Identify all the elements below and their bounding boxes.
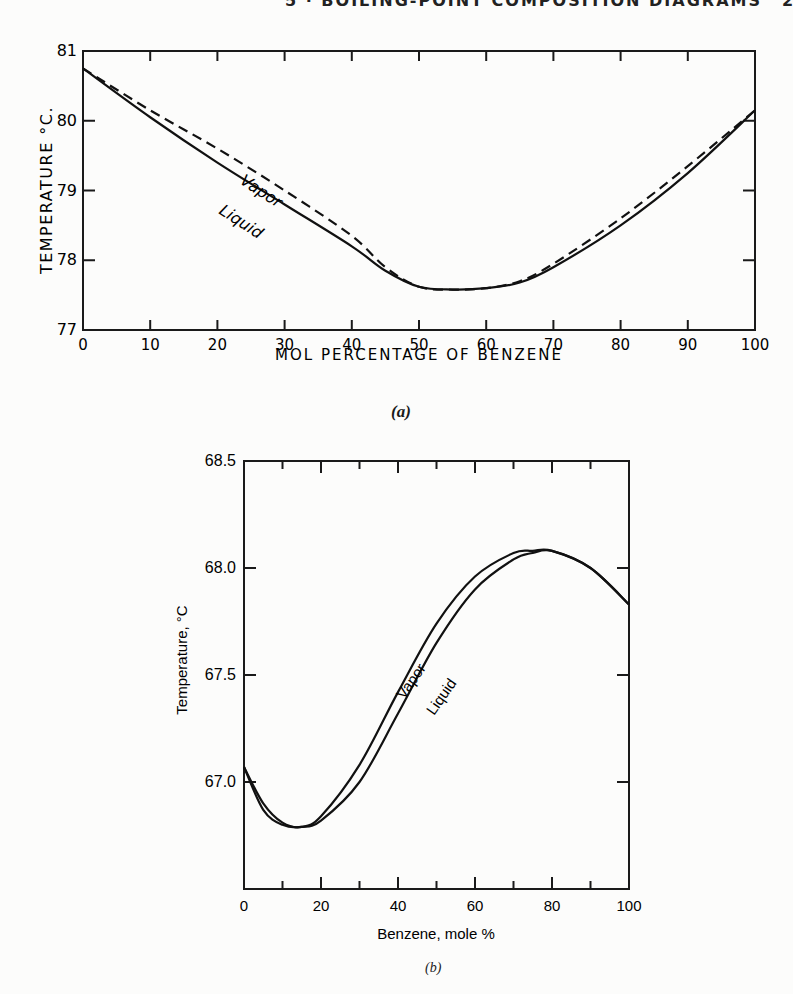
chart-a-x-axis: 0102030405060708090100	[78, 51, 769, 354]
y-tick-label: 77	[57, 320, 77, 339]
x-tick-label: 100	[616, 897, 641, 914]
y-tick-label: 80	[57, 111, 77, 130]
chart-b-liquid-label: Liquid	[423, 675, 460, 718]
chart-a-caption: (a)	[391, 402, 411, 422]
y-tick-label: 67.5	[205, 666, 236, 683]
chart-a-liquid-label: Liquid	[216, 200, 268, 243]
series-liquid-line	[83, 68, 755, 289]
x-tick-label: 100	[741, 336, 770, 354]
chart-a-y-label: TEMPERATURE °C.	[37, 106, 56, 275]
x-tick-label: 40	[390, 897, 407, 914]
chart-a-series	[83, 68, 755, 289]
chart-a-x-label: MOL PERCENTAGE OF BENZENE	[275, 346, 563, 364]
chart-b: 020406080100 67.067.568.068.5 Benzene, m…	[173, 452, 642, 942]
x-tick-label: 80	[544, 897, 561, 914]
y-tick-label: 79	[57, 181, 77, 200]
chart-b-frame	[244, 461, 629, 889]
chart-b-y-label: Temperature, °C	[173, 605, 190, 715]
x-tick-label: 80	[611, 336, 630, 354]
y-tick-label: 68.5	[205, 452, 236, 469]
chart-a-y-axis: 7778798081	[57, 41, 755, 339]
y-tick-label: 68.0	[205, 559, 236, 576]
figure-canvas: 0102030405060708090100 7778798081 MOL PE…	[0, 0, 793, 994]
chart-a-frame	[83, 51, 755, 330]
x-tick-label: 10	[141, 336, 160, 354]
series-vapor-line	[83, 68, 755, 289]
x-tick-label: 20	[208, 336, 227, 354]
chart-b-caption: (b)	[425, 960, 441, 976]
chart-b-vapor-label: Vapor	[393, 660, 429, 702]
chart-a: 0102030405060708090100 7778798081 MOL PE…	[37, 41, 769, 364]
y-tick-label: 67.0	[205, 773, 236, 790]
x-tick-label: 20	[313, 897, 330, 914]
y-tick-label: 81	[57, 41, 77, 60]
x-tick-label: 0	[240, 897, 248, 914]
chart-b-x-label: Benzene, mole %	[377, 925, 495, 942]
y-tick-label: 78	[57, 250, 77, 269]
x-tick-label: 0	[78, 336, 88, 354]
x-tick-label: 60	[467, 897, 484, 914]
chart-b-y-axis: 67.067.568.068.5	[205, 452, 629, 790]
x-tick-label: 90	[678, 336, 697, 354]
